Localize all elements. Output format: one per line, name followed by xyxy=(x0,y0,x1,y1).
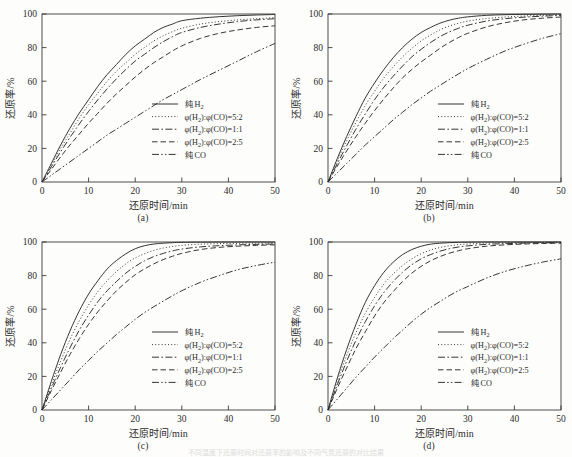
x-tick-label: 20 xyxy=(416,186,426,196)
x-tick-label: 40 xyxy=(510,414,520,424)
data-curve xyxy=(328,14,561,182)
legend-label: 纯 CO xyxy=(471,378,493,388)
x-tick-label: 50 xyxy=(556,414,566,424)
x-tick-label: 20 xyxy=(130,186,140,196)
y-tick-label: 40 xyxy=(28,338,38,348)
y-tick-label: 20 xyxy=(314,372,324,382)
x-tick-label: 20 xyxy=(130,414,140,424)
data-curve xyxy=(42,245,275,410)
x-tick-label: 50 xyxy=(270,414,280,424)
y-tick-label: 0 xyxy=(318,405,323,415)
panel-label-a: (a) xyxy=(0,213,286,223)
data-curve xyxy=(42,244,275,410)
y-axis-title: 还原率/% xyxy=(4,305,16,346)
x-tick-label: 50 xyxy=(270,186,280,196)
x-tick-label: 10 xyxy=(370,186,380,196)
y-tick-label: 0 xyxy=(32,177,37,187)
x-axis-title: 还原时间/min xyxy=(415,427,473,439)
y-tick-label: 20 xyxy=(28,372,38,382)
legend-label: φ(H2):φ(CO)=1:1 xyxy=(471,353,529,363)
legend-label: φ(H2):φ(CO)=5:2 xyxy=(185,341,243,351)
legend-label: φ(H2):φ(CO)=2:5 xyxy=(185,366,243,376)
legend-label: φ(H2):φ(CO)=5:2 xyxy=(471,341,529,351)
figure-bottom-caption: 不同温度下还原时间对还原率的影响及不同气氛还原的对比结果 xyxy=(0,447,572,457)
x-tick-label: 30 xyxy=(463,414,473,424)
x-tick-label: 40 xyxy=(510,186,520,196)
x-tick-label: 0 xyxy=(326,414,331,424)
y-axis-title: 还原率/% xyxy=(290,305,302,346)
x-tick-label: 40 xyxy=(224,186,234,196)
data-curve xyxy=(328,16,561,182)
legend-label: 纯 H2 xyxy=(185,99,204,110)
x-axis-title: 还原时间/min xyxy=(129,199,187,211)
x-tick-label: 50 xyxy=(556,186,566,196)
y-tick-label: 80 xyxy=(28,43,38,53)
legend-label: 纯 CO xyxy=(185,150,207,160)
legend-label: φ(H2):φ(CO)=5:2 xyxy=(471,113,529,123)
y-tick-label: 100 xyxy=(23,237,38,247)
plot-frame xyxy=(328,14,561,182)
y-tick-label: 80 xyxy=(28,271,38,281)
y-tick-label: 40 xyxy=(314,338,324,348)
chart-panel-a: 01020304050020406080100还原时间/min还原率/%纯 H2… xyxy=(0,0,286,228)
y-tick-label: 40 xyxy=(314,110,324,120)
legend-label: φ(H2):φ(CO)=2:5 xyxy=(471,366,529,376)
y-tick-label: 0 xyxy=(32,405,37,415)
chart-panel-d: 01020304050020406080100还原时间/min还原率/%纯 H2… xyxy=(286,228,572,456)
y-tick-label: 100 xyxy=(309,237,324,247)
legend-label: 纯 H2 xyxy=(471,99,490,110)
x-tick-label: 40 xyxy=(224,414,234,424)
plot-frame xyxy=(42,242,275,410)
x-tick-label: 30 xyxy=(463,186,473,196)
data-curve xyxy=(328,34,561,182)
y-tick-label: 60 xyxy=(28,77,38,87)
chart-panel-c: 01020304050020406080100还原时间/min还原率/%纯 H2… xyxy=(0,228,286,456)
legend-label: φ(H2):φ(CO)=5:2 xyxy=(185,113,243,123)
x-tick-label: 10 xyxy=(370,414,380,424)
x-tick-label: 0 xyxy=(40,414,45,424)
data-curve xyxy=(42,243,275,410)
y-tick-label: 0 xyxy=(318,177,323,187)
y-tick-label: 20 xyxy=(28,144,38,154)
x-axis-title: 还原时间/min xyxy=(129,427,187,439)
legend-label: 纯 CO xyxy=(185,378,207,388)
y-axis-title: 还原率/% xyxy=(290,77,302,118)
y-tick-label: 20 xyxy=(314,144,324,154)
x-tick-label: 20 xyxy=(416,414,426,424)
data-curve xyxy=(42,242,275,410)
legend-label: φ(H2):φ(CO)=1:1 xyxy=(185,125,243,135)
panel-label-b: (b) xyxy=(286,213,572,223)
x-axis-title: 还原时间/min xyxy=(415,199,473,211)
legend-label: 纯 H2 xyxy=(471,327,490,338)
chart-panel-b: 01020304050020406080100还原时间/min还原率/%纯 H2… xyxy=(286,0,572,228)
legend-label: φ(H2):φ(CO)=2:5 xyxy=(185,138,243,148)
legend-label: φ(H2):φ(CO)=1:1 xyxy=(185,353,243,363)
x-tick-label: 30 xyxy=(177,414,187,424)
y-tick-label: 60 xyxy=(28,305,38,315)
y-tick-label: 100 xyxy=(309,9,324,19)
y-tick-label: 60 xyxy=(314,305,324,315)
data-curve xyxy=(42,262,275,410)
legend-label: 纯 CO xyxy=(471,150,493,160)
x-tick-label: 10 xyxy=(84,186,94,196)
y-tick-label: 60 xyxy=(314,77,324,87)
x-tick-label: 0 xyxy=(326,186,331,196)
legend-label: φ(H2):φ(CO)=2:5 xyxy=(471,138,529,148)
data-curve xyxy=(328,259,561,410)
data-curve xyxy=(42,19,275,182)
data-curve xyxy=(328,17,561,182)
y-axis-title: 还原率/% xyxy=(4,77,16,118)
y-tick-label: 80 xyxy=(314,271,324,281)
data-curve xyxy=(328,243,561,410)
figure-panel-grid: 01020304050020406080100还原时间/min还原率/%纯 H2… xyxy=(0,0,572,457)
legend-label: φ(H2):φ(CO)=1:1 xyxy=(471,125,529,135)
data-curve xyxy=(328,15,561,182)
y-tick-label: 100 xyxy=(23,9,38,19)
legend-label: 纯 H2 xyxy=(185,327,204,338)
x-tick-label: 0 xyxy=(40,186,45,196)
y-tick-label: 40 xyxy=(28,110,38,120)
y-tick-label: 80 xyxy=(314,43,324,53)
x-tick-label: 10 xyxy=(84,414,94,424)
x-tick-label: 30 xyxy=(177,186,187,196)
